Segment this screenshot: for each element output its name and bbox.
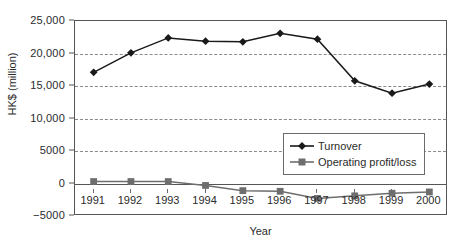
x-tick-mark [167, 189, 168, 193]
data-point-square [90, 178, 97, 185]
legend-item-turnover: Turnover [289, 138, 416, 154]
x-tick-mark [205, 189, 206, 193]
x-tick-label: 1993 [155, 194, 179, 206]
legend-swatch-square-icon [289, 156, 315, 168]
y-tick-label: −5000 [33, 209, 65, 221]
data-point-diamond [90, 68, 98, 76]
data-point-square [128, 178, 135, 185]
x-tick-mark [93, 189, 94, 193]
x-axis-title: Year [74, 225, 447, 237]
data-point-diamond [388, 89, 396, 97]
x-tick-label: 1998 [342, 194, 366, 206]
x-tick-mark [354, 189, 355, 193]
data-point-square [202, 182, 209, 189]
series-turnover [90, 29, 434, 97]
x-tick-label: 1996 [267, 194, 291, 206]
y-tick-label: 0 [59, 177, 65, 189]
data-point-diamond [164, 34, 172, 42]
series-layer [75, 21, 448, 216]
data-point-diamond [276, 29, 284, 37]
x-tick-mark [242, 189, 243, 193]
plot-area: Turnover Operating profit/loss [74, 20, 447, 215]
x-tick-mark [391, 189, 392, 193]
series-line [94, 33, 430, 93]
x-tick-label: 2000 [416, 194, 440, 206]
x-tick-mark [428, 189, 429, 193]
x-tick-label: 1991 [80, 194, 104, 206]
x-tick-label: 1995 [230, 194, 254, 206]
legend-item-operating-profit-loss: Operating profit/loss [289, 154, 416, 170]
y-tick-label: 15,000 [30, 79, 65, 91]
y-tick-label: 25,000 [30, 14, 65, 26]
x-tick-label: 1994 [192, 194, 216, 206]
y-tick-label: 10,000 [30, 112, 65, 124]
data-point-diamond [127, 49, 135, 57]
data-point-diamond [202, 37, 210, 45]
x-tick-mark [130, 189, 131, 193]
data-point-diamond [425, 80, 433, 88]
x-tick-label: 1999 [379, 194, 403, 206]
data-point-diamond [239, 38, 247, 46]
x-tick-mark [279, 189, 280, 193]
y-tick-label: 20,000 [30, 47, 65, 59]
x-tick-label: 1992 [118, 194, 142, 206]
legend: Turnover Operating profit/loss [283, 133, 425, 175]
y-tick-label: 5000 [40, 144, 65, 156]
line-chart: 25,00020,00015,00010,00050000−5000 HK$ (… [0, 0, 463, 251]
legend-label: Turnover [318, 140, 362, 152]
x-tick-label: 1997 [304, 194, 328, 206]
x-tick-mark [316, 189, 317, 193]
y-axis-title: HK$ (million) [6, 19, 18, 149]
legend-label: Operating profit/loss [318, 156, 416, 168]
legend-swatch-diamond-icon [289, 140, 315, 152]
data-point-square [165, 178, 172, 185]
